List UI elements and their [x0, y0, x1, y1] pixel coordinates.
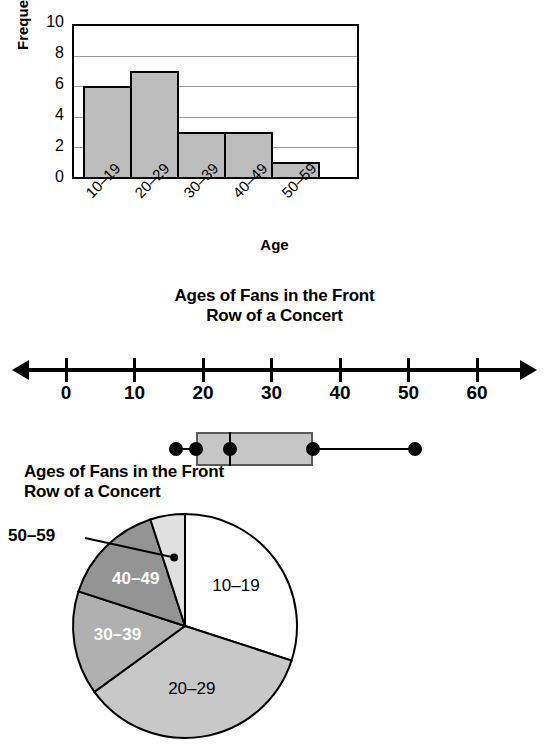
- number-line-tick: [65, 358, 68, 382]
- pie-title: Ages of Fans in the Front Row of a Conce…: [0, 462, 430, 502]
- pie-title-line-1: Ages of Fans in the Front: [24, 462, 430, 482]
- number-line-tick-label: 10: [115, 382, 155, 404]
- histogram-y-tick-label: 4: [38, 106, 64, 124]
- number-line-tick-label: 0: [46, 382, 86, 404]
- pie-slice-label: 10–19: [212, 576, 259, 596]
- histogram-title: Row of a Concert: [0, 0, 549, 2]
- pie-figure: Ages of Fans in the Front Row of a Conce…: [0, 462, 549, 747]
- boxplot-whisker: [313, 448, 416, 450]
- number-line-tick-label: 20: [183, 382, 223, 404]
- left-arrowhead-icon: [12, 360, 29, 380]
- statistics-figure-page: Row of a Concert Frequency 0246810 10–19…: [0, 0, 549, 747]
- histogram-bar-group: [74, 26, 357, 177]
- number-line-tick: [339, 358, 342, 382]
- number-line-tick-label: 50: [389, 382, 429, 404]
- boxplot-title-line-2: Row of a Concert: [0, 306, 549, 326]
- number-line-tick: [202, 358, 205, 382]
- pie-callout-label: 50–59: [8, 526, 55, 546]
- number-line-tick: [270, 358, 273, 382]
- number-line-tick-label: 40: [320, 382, 360, 404]
- boxplot-title: Ages of Fans in the Front Row of a Conce…: [0, 286, 549, 326]
- histogram-bar: [130, 71, 179, 177]
- pie-slice-label: 40–49: [112, 569, 159, 589]
- histogram-y-tick-label: 10: [38, 13, 64, 31]
- number-line-tick-label: 30: [252, 382, 292, 404]
- histogram-figure: Row of a Concert Frequency 0246810 10–19…: [0, 0, 549, 280]
- number-line-tick: [476, 358, 479, 382]
- pie-slice-label: 20–29: [168, 679, 215, 699]
- pie-title-line-2: Row of a Concert: [24, 482, 430, 502]
- pie-chart-area: 50–59 10–1920–2930–3940–49: [0, 506, 549, 746]
- histogram-y-tick-label: 6: [38, 75, 64, 93]
- boxplot-figure: Ages of Fans in the Front Row of a Conce…: [0, 286, 549, 461]
- histogram-y-tick-label: 2: [38, 137, 64, 155]
- boxplot-q3-dot: [306, 442, 320, 456]
- boxplot-minimum-dot: [169, 442, 183, 456]
- boxplot-maximum-dot: [408, 442, 422, 456]
- right-arrowhead-icon: [520, 360, 537, 380]
- histogram-plot-area: [72, 24, 359, 179]
- histogram-y-tick-label: 0: [38, 168, 64, 186]
- boxplot-box: [196, 432, 312, 466]
- pie-callout-dot: [170, 553, 178, 561]
- boxplot-number-line: [28, 368, 521, 372]
- number-line-tick: [133, 358, 136, 382]
- histogram-y-axis-label: Frequency: [14, 0, 31, 50]
- number-line-tick-label: 60: [457, 382, 497, 404]
- pie-chart-svg: [0, 506, 549, 746]
- histogram-y-tick-label: 8: [38, 44, 64, 62]
- pie-slice-label: 30–39: [94, 625, 141, 645]
- histogram-x-axis-label: Age: [0, 236, 549, 253]
- number-line-tick: [407, 358, 410, 382]
- boxplot-title-line-1: Ages of Fans in the Front: [0, 286, 549, 306]
